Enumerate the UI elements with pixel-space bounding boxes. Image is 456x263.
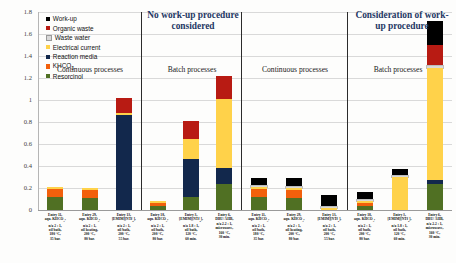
gridline xyxy=(38,100,452,101)
bar-segment xyxy=(286,178,302,186)
x-tick-label: Entry 3,[EMIM][NTf2],n/a 1.8 : 1,oil bat… xyxy=(386,213,414,241)
legend-swatch-icon xyxy=(46,35,52,41)
bar-segment xyxy=(183,139,199,159)
group-separator-1 xyxy=(141,12,142,210)
bar-segment xyxy=(251,189,267,197)
bar-segment xyxy=(427,184,443,210)
bar-segment xyxy=(216,168,232,184)
y-axis-ticks: 00.20.40.60.811.21.41.61.8 xyxy=(0,12,34,210)
bar-segment xyxy=(116,115,132,210)
legend-label: Waste water xyxy=(55,34,90,41)
bar-segment xyxy=(286,190,302,198)
chart-legend: Work-upOrganic wasteWaste waterElectrica… xyxy=(46,14,132,81)
legend-item[interactable]: Resorcinol xyxy=(46,71,132,80)
y-tick-label: 1 xyxy=(0,97,32,104)
x-tick-label: Entry 11,aqu. KHCO3,n/a 2 : 1,oil bath,1… xyxy=(245,213,273,241)
x-tick-label: Entry 6,DBU/ AHB,n/a 2.2 : 1,microwave,1… xyxy=(210,213,238,239)
bar-segment xyxy=(82,198,98,210)
x-tick-label: Entry 3,[EMIM][NTf2],n/a 1.8 : 1,oil bat… xyxy=(177,213,205,241)
stacked-bar[interactable] xyxy=(427,21,443,210)
y-tick-label: 0.2 xyxy=(0,185,32,192)
y-tick-label: 1.4 xyxy=(0,53,32,60)
legend-swatch-icon xyxy=(46,74,50,78)
y-tick-label: 1.8 xyxy=(0,9,32,16)
gridline xyxy=(38,166,452,167)
legend-label: KHCO3 xyxy=(53,62,74,71)
legend-swatch-icon xyxy=(46,64,50,68)
legend-item[interactable]: Electrical current xyxy=(46,43,132,52)
x-tick-label: Entry 29,aqu. KHCO3,n/a 2 : 1,oil heatin… xyxy=(280,213,308,241)
legend-swatch-icon xyxy=(46,26,50,30)
gridline xyxy=(38,188,452,189)
bar-segment xyxy=(321,195,337,207)
stacked-bar[interactable] xyxy=(47,187,63,210)
y-tick-label: 1.2 xyxy=(0,75,32,82)
bar-segment xyxy=(216,76,232,99)
legend-item[interactable]: Organic waste xyxy=(46,24,132,33)
bar-segment xyxy=(47,189,63,197)
x-tick-label: Entry 13,[EMIM][NTf2],n/a 2 : 1,oil bath… xyxy=(110,213,138,241)
gridline xyxy=(38,144,452,145)
bar-segment xyxy=(427,45,443,66)
legend-label: Work-up xyxy=(53,15,77,22)
y-tick-label: 1.6 xyxy=(0,31,32,38)
legend-swatch-icon xyxy=(46,17,50,21)
x-tick-label: Entry 6,DBU/ AHB,n/a 2.2 : 1,microwave,1… xyxy=(421,213,449,239)
legend-swatch-icon xyxy=(46,55,50,59)
stacked-bar[interactable] xyxy=(216,76,232,210)
legend-item[interactable]: Waste water xyxy=(46,33,132,42)
bar-segment xyxy=(392,169,408,176)
stacked-bar[interactable] xyxy=(321,195,337,210)
stacked-bar[interactable] xyxy=(251,178,267,210)
x-tick-label: Entry 18,aqu. KHCO3,n/a 2 : 1,oil bath,2… xyxy=(144,213,172,241)
legend-swatch-icon xyxy=(46,45,50,49)
bar-segment xyxy=(183,121,199,139)
y-tick-label: 0.8 xyxy=(0,119,32,126)
bar-segment xyxy=(216,99,232,168)
x-tick-label: Entry 18,aqu. KHCO3,n/a 2 : 1,oil bath,2… xyxy=(351,213,379,241)
panel-title-left: No work-up procedure considered xyxy=(146,10,240,32)
legend-item[interactable]: Reaction media xyxy=(46,52,132,61)
stacked-bar[interactable] xyxy=(286,178,302,210)
bar-segment xyxy=(427,68,443,180)
panel-title-right: Consideration of work-up procedure xyxy=(352,10,452,32)
legend-label: Electrical current xyxy=(53,44,101,51)
group-label-batch-1: Batch processes xyxy=(148,65,236,75)
stacked-bar[interactable] xyxy=(150,201,166,210)
bar-segment xyxy=(286,198,302,210)
x-tick-label: Entry 29,aqu. KHCO3,n/a 2 : 1,oil heatin… xyxy=(76,213,104,241)
legend-label: Reaction media xyxy=(53,53,97,60)
legend-label: Organic waste xyxy=(53,25,94,32)
stacked-bar[interactable] xyxy=(183,121,199,210)
group-label-continuous-2: Continuous processes xyxy=(248,65,342,75)
bar-segment xyxy=(116,98,132,112)
bar-segment xyxy=(216,184,232,210)
stacked-bar[interactable] xyxy=(357,192,373,210)
group-separator-3 xyxy=(347,12,348,210)
gridline xyxy=(38,122,452,123)
chart-figure: 00.20.40.60.811.21.41.61.8 No work-up pr… xyxy=(0,0,456,263)
group-label-batch-2: Batch processes xyxy=(354,65,442,75)
bar-segment xyxy=(251,197,267,210)
stacked-bar[interactable] xyxy=(392,169,408,210)
y-tick-label: 0.4 xyxy=(0,163,32,170)
x-tick-label: Entry 11,aqu. KHCO3,n/a 2 : 1,oil bath,1… xyxy=(41,213,69,241)
group-separator-2 xyxy=(241,12,242,210)
x-tick-label: Entry 13,[EMIM][NTf2],n/a 2 : 1,oil bath… xyxy=(315,213,343,241)
legend-item[interactable]: Work-up xyxy=(46,14,132,23)
legend-label: Resorcinol xyxy=(53,73,83,80)
y-axis-line xyxy=(38,12,39,210)
bar-segment xyxy=(47,197,63,210)
bar-segment xyxy=(357,192,373,199)
y-tick-label: 0.6 xyxy=(0,141,32,148)
stacked-bar[interactable] xyxy=(82,188,98,210)
bar-segment xyxy=(251,178,267,186)
bar-segment xyxy=(392,177,408,210)
legend-item[interactable]: KHCO3 xyxy=(46,62,132,71)
bar-segment xyxy=(183,197,199,210)
stacked-bar[interactable] xyxy=(116,98,132,210)
bar-segment xyxy=(183,159,199,197)
bar-segment xyxy=(82,190,98,198)
x-axis-line xyxy=(38,210,452,211)
y-tick-label: 0 xyxy=(0,207,32,214)
